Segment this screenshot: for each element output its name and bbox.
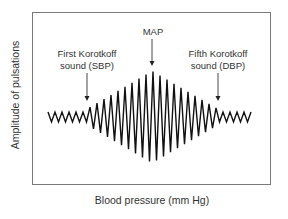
sbp-arrow-head-icon [85,96,90,101]
map-arrow-head-icon [150,61,155,66]
oscillometry-diagram: Amplitude of pulsations Blood pressure (… [0,0,288,219]
waveform-plot [0,0,288,219]
pulsation-waveform [48,72,251,162]
dbp-arrow-head-icon [216,96,221,101]
